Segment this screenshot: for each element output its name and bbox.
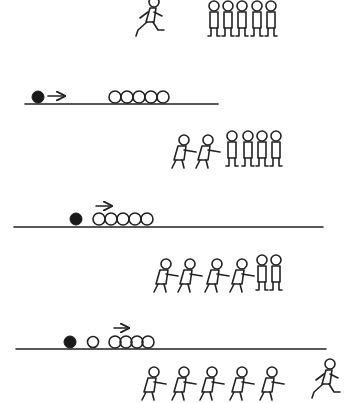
child-icon: [236, 1, 248, 36]
child-icon: [222, 1, 234, 36]
white-ball-icon: [121, 91, 133, 103]
child-icon: [256, 131, 268, 166]
white-ball-icon: [105, 213, 117, 225]
white-ball-icon: [88, 337, 99, 348]
running-child-icon: [312, 359, 340, 398]
white-ball-icon: [129, 213, 141, 225]
white-ball-icon: [157, 91, 169, 103]
pushing-child-icon: [154, 259, 178, 292]
pushing-child-icon: [196, 135, 220, 168]
black-ball-icon: [64, 336, 76, 348]
white-ball-icon: [93, 213, 105, 225]
illustration-canvas: [0, 0, 350, 403]
child-icon: [242, 131, 254, 166]
white-ball-icon: [117, 213, 129, 225]
balls-impact-panel: [14, 206, 323, 227]
pushing-child-icon: [172, 135, 196, 168]
kids-propagate-panel: [154, 255, 282, 292]
white-ball-icon: [109, 91, 121, 103]
child-icon: [208, 1, 220, 36]
pushing-child-icon: [205, 259, 229, 292]
balls-before-panel: [25, 91, 218, 104]
child-icon: [256, 255, 268, 290]
kids-before-panel: [136, 0, 277, 36]
running-child-icon: [136, 0, 164, 36]
balls-after-panel: [16, 328, 326, 349]
white-ball-icon: [141, 213, 153, 225]
white-ball-icon: [109, 336, 121, 348]
kids-after-panel: [142, 359, 340, 400]
child-icon: [270, 131, 282, 166]
child-icon: [265, 1, 277, 36]
white-ball-icon: [131, 336, 143, 348]
black-ball-icon: [70, 213, 82, 225]
white-ball-icon: [142, 336, 154, 348]
pushing-child-icon: [172, 367, 196, 400]
pushing-child-icon: [142, 367, 166, 400]
pushing-child-icon: [178, 259, 202, 292]
child-icon: [226, 131, 238, 166]
white-ball-icon: [133, 91, 145, 103]
pushing-child-icon: [230, 367, 254, 400]
pushing-child-icon: [230, 259, 254, 292]
kids-impact-panel: [172, 131, 282, 168]
white-ball-icon: [120, 336, 132, 348]
child-icon: [270, 255, 282, 290]
black-ball-icon: [32, 91, 44, 103]
child-icon: [251, 1, 263, 36]
white-ball-icon: [145, 91, 157, 103]
pushing-child-icon: [260, 367, 284, 400]
pushing-child-icon: [200, 367, 224, 400]
